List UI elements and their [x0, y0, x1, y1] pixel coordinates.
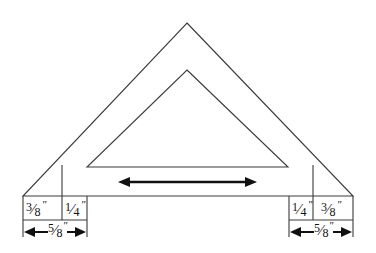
right-total-arrow-left [290, 227, 301, 237]
right-dimension-group: 1⁄4″ 3⁄8″ 5⁄8″ [289, 165, 353, 240]
right-dim-1-4: 1⁄4″ [292, 198, 313, 219]
drafting-triangle-diagram: 3⁄8″ 1⁄4″ 5⁄8″ [0, 0, 376, 253]
right-total-dim: 5⁄8″ [290, 219, 352, 240]
left-dimension-group: 3⁄8″ 1⁄4″ 5⁄8″ [23, 165, 87, 240]
left-dim-1-4: 1⁄4″ [65, 198, 86, 219]
right-dim-5-8-denominator: 8 [323, 226, 329, 240]
left-dim-5-8-unit: ″ [64, 219, 69, 231]
right-dim-3-8-denominator: 8 [330, 205, 336, 219]
right-total-arrow-right [341, 227, 352, 237]
right-dim-3-8: 3⁄8″ [321, 198, 342, 219]
left-dim-3-8-unit: ″ [43, 198, 48, 210]
right-dim-1-4-unit: ″ [309, 198, 314, 210]
left-total-dim: 5⁄8″ [24, 219, 86, 240]
left-dim-3-8-denominator: 8 [35, 205, 41, 219]
left-dim-1-4-unit: ″ [82, 198, 87, 210]
right-dim-5-8: 5⁄8″ [314, 219, 334, 240]
left-total-arrow-left [24, 227, 35, 237]
left-dim-5-8: 5⁄8″ [48, 219, 68, 240]
arrow-head-right [245, 177, 257, 187]
inner-triangle [87, 70, 288, 167]
left-dim-5-8-denominator: 8 [57, 226, 63, 240]
left-dim-3-8: 3⁄8″ [26, 198, 47, 219]
inner-width-double-arrow [118, 177, 257, 187]
right-dim-3-8-unit: ″ [338, 198, 343, 210]
arrow-head-left [118, 177, 130, 187]
right-dim-1-4-denominator: 4 [301, 205, 307, 219]
right-dim-5-8-unit: ″ [330, 219, 335, 231]
diagram-canvas: 3⁄8″ 1⁄4″ 5⁄8″ [0, 0, 376, 253]
outer-triangle [23, 23, 353, 196]
left-dim-1-4-denominator: 4 [74, 205, 80, 219]
left-total-arrow-right [75, 227, 86, 237]
